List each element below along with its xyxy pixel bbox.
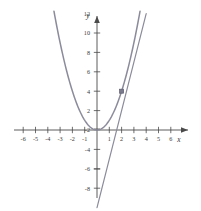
tangency-point-marker: [120, 89, 124, 93]
y-axis-label: y: [85, 11, 90, 20]
graph-figure: -6 -5 -4 -3 -2 -1 1 2 3 4 5 6 -8 -6 -4 -…: [0, 0, 201, 211]
x-tick-labels: -6 -5 -4 -3 -2 -1 1 2 3 4 5 6: [21, 135, 173, 142]
y-tick-label: 6: [87, 68, 90, 75]
y-tick-label: 10: [84, 29, 90, 36]
coordinate-plane-svg: -6 -5 -4 -3 -2 -1 1 2 3 4 5 6 -8 -6 -4 -…: [0, 0, 201, 211]
x-tick-label: 6: [169, 135, 172, 142]
y-axis-arrow: [94, 16, 100, 23]
x-tick-label: 2: [120, 135, 123, 142]
tangent-line: [97, 14, 146, 208]
y-tick-labels: -8 -6 -4 -2 2 4 6 8 10 12: [84, 10, 90, 192]
x-tick-label: -4: [45, 135, 50, 142]
x-axis-arrow: [181, 127, 188, 133]
curves-group: [54, 11, 146, 207]
y-tick-label: 4: [87, 88, 90, 95]
x-tick-label: 4: [145, 135, 148, 142]
x-tick-label: 1: [108, 135, 111, 142]
y-tick-label: 8: [87, 49, 90, 56]
y-tick-label: -8: [85, 185, 90, 192]
y-tick-label: -2: [85, 126, 90, 133]
x-tick-label: 3: [132, 135, 135, 142]
x-tick-label: -1: [82, 135, 87, 142]
x-tick-label: 5: [157, 135, 160, 142]
x-tick-label: -3: [58, 135, 63, 142]
y-tick-label: 2: [87, 107, 90, 114]
y-tick-label: -4: [85, 146, 90, 153]
axes-group: [14, 16, 188, 198]
x-axis-label: x: [176, 135, 181, 144]
x-tick-label: -5: [33, 135, 38, 142]
x-tick-label: -6: [21, 135, 26, 142]
x-tick-label: -2: [70, 135, 75, 142]
y-tick-label: -6: [85, 165, 90, 172]
